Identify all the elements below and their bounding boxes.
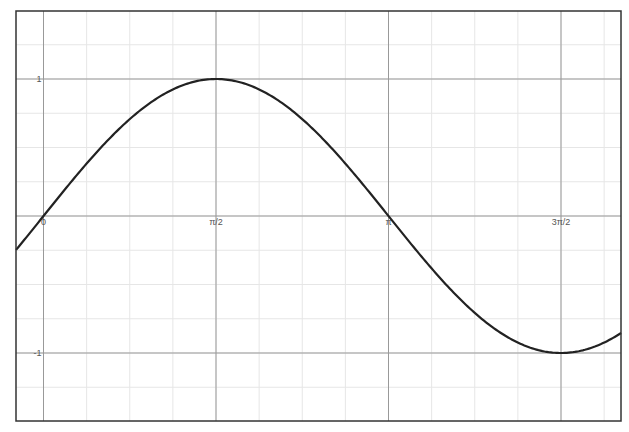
y-tick-label: 1 [36, 74, 41, 84]
x-tick-label: 3π/2 [552, 217, 571, 227]
sine-plot: 0π/2π3π/21-1 [0, 0, 629, 432]
y-tick-label: -1 [33, 348, 41, 358]
major-grid [16, 11, 621, 421]
x-tick-label: π/2 [209, 217, 223, 227]
